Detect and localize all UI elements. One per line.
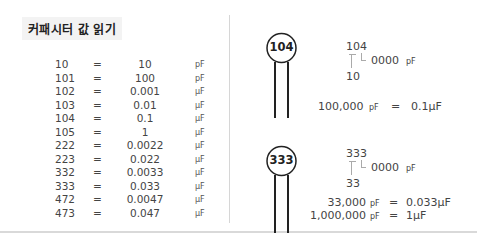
example2-code: 333	[346, 147, 367, 160]
code-cell: 222	[55, 139, 75, 151]
example2-base: 33	[346, 177, 360, 190]
equals-cell: =	[93, 126, 102, 138]
table-row: 333=0.033μF	[0, 180, 229, 194]
table-row: 102=0.001μF	[0, 85, 229, 99]
code-cell: 101	[55, 72, 75, 84]
bracket-line	[361, 160, 366, 168]
value-cell: 0.0022	[115, 139, 175, 151]
example1-code: 104	[346, 40, 367, 53]
example2-multiplier-unit: pF	[406, 164, 416, 173]
equals-cell: =	[93, 193, 102, 205]
equals-cell: =	[93, 207, 102, 219]
page-title: 커패시터 값 읽기	[22, 17, 122, 40]
value-cell: 0.01	[115, 99, 175, 111]
equals-cell: =	[93, 85, 102, 97]
code-cell: 332	[55, 166, 75, 178]
code-cell: 223	[55, 153, 75, 165]
value-cell: 0.0047	[115, 193, 175, 205]
table-row: 101=100pF	[0, 72, 229, 86]
bracket-line	[351, 54, 352, 68]
bottom-divider	[0, 231, 477, 233]
unit-cell: μF	[195, 114, 205, 123]
unit-cell: μF	[195, 87, 205, 96]
example2-multiplier: 0000	[371, 161, 399, 174]
capacitor-label: 333	[266, 153, 297, 167]
value-cell: 0.1	[115, 112, 175, 124]
value-cell: 1	[115, 126, 175, 138]
code-cell: 473	[55, 207, 75, 219]
unit-cell: μF	[195, 155, 205, 164]
value-cell: 0.001	[115, 85, 175, 97]
unit-cell: pF	[195, 60, 205, 69]
example1-multiplier: 0000	[371, 54, 399, 67]
example2-result-uf: 0.033μF	[406, 196, 451, 209]
unit-cell: μF	[195, 128, 205, 137]
equals-cell: =	[93, 99, 102, 111]
table-row: 473=0.047μF	[0, 207, 229, 221]
capacitor-label: 104	[266, 40, 297, 54]
table-row: 104=0.1μF	[0, 112, 229, 126]
example1-base: 10	[346, 70, 360, 83]
bracket-line	[361, 53, 366, 61]
example2-result-pf: 33,000	[326, 196, 366, 209]
value-cell: 10	[115, 58, 175, 70]
table-row: 223=0.022μF	[0, 153, 229, 167]
unit-cell: μF	[195, 209, 205, 218]
equals-cell: =	[93, 72, 102, 84]
vertical-divider	[229, 15, 230, 223]
code-cell: 104	[55, 112, 75, 124]
value-cell: 100	[115, 72, 175, 84]
example2-result2-uf: 1μF	[406, 209, 426, 222]
example2-result-pf-unit: pF	[370, 199, 380, 208]
table-row: 332=0.0033μF	[0, 166, 229, 180]
example1-multiplier-unit: pF	[406, 57, 416, 66]
code-cell: 105	[55, 126, 75, 138]
example2-result2-pf-unit: pF	[370, 212, 380, 221]
value-cell: 0.047	[115, 207, 175, 219]
equals-cell: =	[93, 112, 102, 124]
unit-cell: pF	[195, 74, 205, 83]
table-row: 222=0.0022μF	[0, 139, 229, 153]
code-cell: 103	[55, 99, 75, 111]
example1-equals: =	[391, 100, 400, 113]
code-cell: 10	[55, 58, 68, 70]
unit-cell: μF	[195, 168, 205, 177]
table-row: 10=10pF	[0, 58, 229, 72]
equals-cell: =	[93, 166, 102, 178]
equals-cell: =	[93, 153, 102, 165]
equals-cell: =	[93, 139, 102, 151]
example2-result2-pf: 1,000,000	[308, 209, 366, 222]
table-row: 472=0.0047μF	[0, 193, 229, 207]
example1-result-uf: 0.1μF	[411, 100, 442, 113]
example1-result-pf-unit: pF	[369, 103, 379, 112]
equals-cell: =	[93, 58, 102, 70]
code-cell: 102	[55, 85, 75, 97]
table-row: 103=0.01μF	[0, 99, 229, 113]
example2-equals: =	[389, 196, 398, 209]
unit-cell: μF	[195, 141, 205, 150]
example1-result-pf: 100,000	[318, 100, 364, 113]
equals-cell: =	[93, 180, 102, 192]
unit-cell: μF	[195, 195, 205, 204]
value-cell: 0.022	[115, 153, 175, 165]
code-cell: 472	[55, 193, 75, 205]
bracket-line	[351, 161, 352, 175]
table-row: 105=1μF	[0, 126, 229, 140]
unit-cell: μF	[195, 101, 205, 110]
value-cell: 0.033	[115, 180, 175, 192]
value-cell: 0.0033	[115, 166, 175, 178]
code-cell: 333	[55, 180, 75, 192]
example2-equals2: =	[389, 209, 398, 222]
unit-cell: μF	[195, 182, 205, 191]
